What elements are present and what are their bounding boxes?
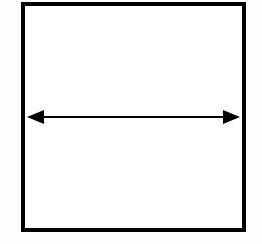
diagram-canvas xyxy=(0,0,262,244)
diagram-svg xyxy=(0,0,262,244)
